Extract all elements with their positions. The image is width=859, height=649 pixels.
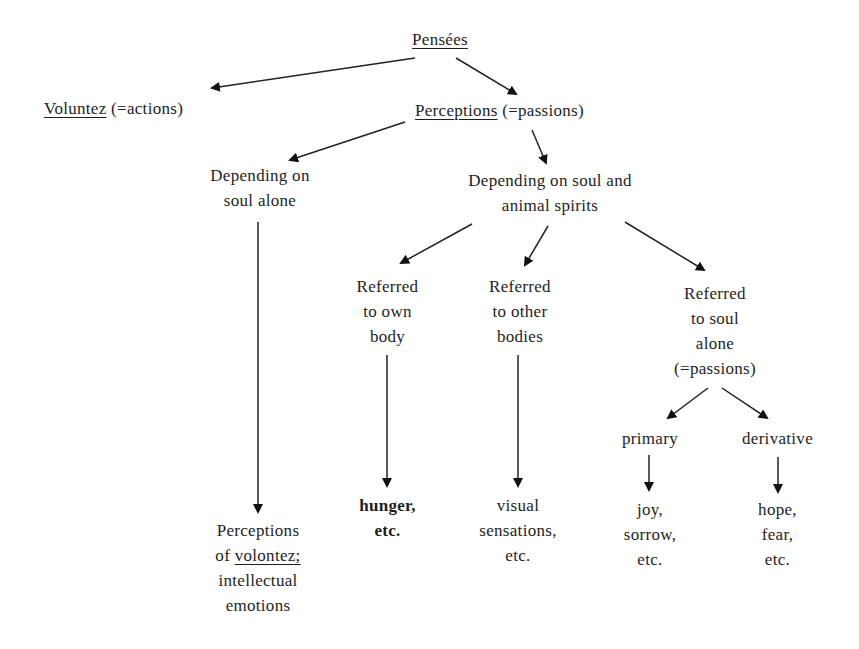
node-derivative-label: derivative <box>742 429 813 448</box>
edge-perceptions-soul-alone <box>290 122 405 160</box>
node-pensees-label: Pensées <box>412 30 468 49</box>
node-referred-own-body: Referred to own body <box>335 274 440 349</box>
node-line: hunger, <box>345 493 430 518</box>
node-volontez-term: volontez; <box>235 546 301 565</box>
edge-soul-spirits-other-bodies <box>525 226 548 265</box>
edge-soul-passions-primary <box>668 388 708 418</box>
node-joy-sorrow: joy, sorrow, etc. <box>605 497 695 572</box>
node-perceptions: Perceptions (=passions) <box>415 98 584 123</box>
node-depending-on-soul-alone: Depending on soul alone <box>180 163 340 213</box>
node-visual-sensations: visual sensations, etc. <box>460 493 576 568</box>
node-line: animal spirits <box>430 193 670 218</box>
node-line: Referred <box>655 281 775 306</box>
node-primary-label: primary <box>622 429 678 448</box>
edge-soul-spirits-soul-passions <box>625 222 704 270</box>
node-line: body <box>335 324 440 349</box>
node-line: Referred <box>465 274 575 299</box>
node-perceptions-of-volontez: Perceptions of volontez; intellectual em… <box>190 518 326 618</box>
node-referred-other-bodies: Referred to other bodies <box>465 274 575 349</box>
node-line: Depending on soul and <box>430 168 670 193</box>
node-line: Referred <box>335 274 440 299</box>
node-line: emotions <box>190 593 326 618</box>
node-pensees: Pensées <box>400 27 480 52</box>
node-line: (=passions) <box>655 356 775 381</box>
node-line: to soul <box>655 306 775 331</box>
node-line: to own <box>335 299 440 324</box>
node-line: sorrow, <box>605 522 695 547</box>
node-voluntez: Voluntez (=actions) <box>44 96 183 121</box>
node-line: soul alone <box>180 188 340 213</box>
node-hope-fear: hope, fear, etc. <box>735 497 820 572</box>
node-line: visual <box>460 493 576 518</box>
node-line: alone <box>655 331 775 356</box>
node-line: Perceptions <box>190 518 326 543</box>
node-line: hope, <box>735 497 820 522</box>
node-line: joy, <box>605 497 695 522</box>
node-derivative: derivative <box>725 426 830 451</box>
node-depending-on-soul-and-spirits: Depending on soul and animal spirits <box>430 168 670 218</box>
node-line: etc. <box>460 543 576 568</box>
node-referred-soul-alone: Referred to soul alone (=passions) <box>655 281 775 381</box>
node-voluntez-term: Voluntez <box>44 99 107 118</box>
edge-soul-spirits-own-body <box>401 224 472 263</box>
node-line: to other <box>465 299 575 324</box>
edge-soul-passions-derivative <box>722 388 767 418</box>
node-primary: primary <box>605 426 695 451</box>
node-line-prefix: of <box>215 546 234 565</box>
edge-perceptions-soul-spirits <box>532 130 546 163</box>
node-perceptions-term: Perceptions <box>415 101 498 120</box>
node-line: etc. <box>345 518 430 543</box>
edge-pensees-voluntez <box>212 58 415 88</box>
node-line: fear, <box>735 522 820 547</box>
node-hunger: hunger, etc. <box>345 493 430 543</box>
node-voluntez-gloss: (=actions) <box>107 99 184 118</box>
node-line: bodies <box>465 324 575 349</box>
pensees-classification-diagram: Pensées Voluntez (=actions) Perceptions … <box>0 0 859 649</box>
node-perceptions-gloss: (=passions) <box>498 101 584 120</box>
node-line: etc. <box>735 547 820 572</box>
node-line: etc. <box>605 547 695 572</box>
node-line: intellectual <box>190 568 326 593</box>
node-line: sensations, <box>460 518 576 543</box>
node-line: of volontez; <box>190 543 326 568</box>
edge-pensees-perceptions <box>456 58 516 94</box>
node-line: Depending on <box>180 163 340 188</box>
